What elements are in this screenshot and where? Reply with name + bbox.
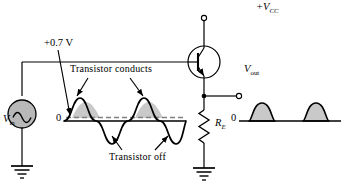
label-vin-sub: in xyxy=(9,119,14,126)
supply-terminal-vcc[interactable] xyxy=(201,15,206,20)
arrow-bias-to-threshold xyxy=(58,50,70,115)
output-hump-2 xyxy=(303,103,329,121)
label-vout: Vout xyxy=(244,64,259,77)
resistor-zigzag xyxy=(199,110,209,143)
label-vcc: +VCC xyxy=(256,2,279,15)
label-re: RE xyxy=(215,118,226,131)
label-vout-sub: out xyxy=(250,69,259,76)
label-vcc-main: +V xyxy=(256,1,270,12)
label-re-sub: E xyxy=(221,123,225,130)
output-hump-1 xyxy=(249,103,275,121)
ground-emitter xyxy=(193,168,215,180)
output-branch xyxy=(202,93,242,98)
annotation-transistor-conducts: Transistor conducts xyxy=(70,64,152,74)
arrow-conducts-1 xyxy=(77,78,88,96)
label-zero-output: 0 xyxy=(231,113,236,124)
label-zero-input: 0 xyxy=(56,113,61,124)
resistor-re[interactable] xyxy=(199,96,209,168)
supply-branch xyxy=(201,15,206,46)
output-terminal-vout[interactable] xyxy=(236,93,241,98)
transistor-npn[interactable] xyxy=(188,46,220,96)
arrow-conducts-2 xyxy=(130,78,143,96)
label-vcc-sub: CC xyxy=(270,7,279,14)
arrow-off-2 xyxy=(155,136,168,150)
label-bias-voltage: +0.7 V xyxy=(44,38,73,49)
shaded-conduction-region-2 xyxy=(135,102,163,118)
ground-input xyxy=(11,166,33,178)
label-vin: Vin xyxy=(3,114,15,127)
output-waveform xyxy=(239,103,341,121)
annotation-transistor-off: Transistor off xyxy=(109,152,166,162)
figure-root: +VCC +0.7 V Vout Vin RE Transistor condu… xyxy=(0,0,345,192)
circuit-diagram-canvas xyxy=(0,0,345,192)
voltage-source-vin[interactable] xyxy=(8,100,36,166)
